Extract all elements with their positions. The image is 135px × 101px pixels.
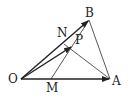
vector-ob [21, 21, 88, 79]
label-o: O [8, 72, 18, 86]
vector-diagram: O A B M N P [0, 0, 135, 101]
segment-ab [89, 20, 110, 79]
label-b: B [85, 6, 94, 20]
label-p: P [75, 33, 83, 47]
label-a: A [111, 74, 121, 88]
label-m: M [46, 81, 58, 95]
vector-op [21, 47, 71, 79]
segment-an [64, 44, 110, 79]
label-n: N [57, 26, 68, 40]
